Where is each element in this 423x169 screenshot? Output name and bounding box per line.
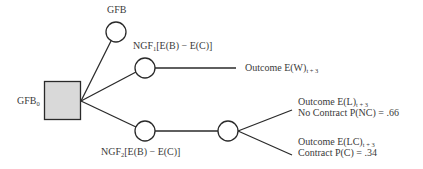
label-gfb-text: GFB: [107, 4, 126, 15]
label-root-text: GFB: [17, 95, 36, 106]
node-ngf2-circle: [135, 121, 155, 141]
label-outcome-lc-text: Outcome E(LC): [298, 136, 363, 147]
label-outcome-l: Outcome E(L)t + 3 No Contract P(NC) = .6…: [298, 96, 399, 118]
label-ngf1: NGF1[E(B) − E(C)]: [133, 40, 212, 51]
branch-no-contract: [238, 110, 292, 131]
branch-ngf2: [81, 101, 136, 127]
label-gfb: GFB: [107, 4, 126, 15]
decision-node-square: [45, 82, 81, 120]
label-ngf2: NGF2[E(B) − E(C)]: [101, 146, 180, 157]
label-root-sub: 0: [36, 100, 39, 107]
label-ngf1-suffix: [E(B) − E(C)]: [156, 40, 212, 51]
node-gfb-circle: [106, 22, 126, 42]
label-root: GFB0: [17, 95, 40, 106]
label-outcome-w: Outcome E(W)t + 3: [245, 62, 318, 73]
branch-contract: [238, 131, 292, 155]
label-outcome-w-text: Outcome E(W): [245, 62, 306, 73]
label-contract-prob: Contract P(C) = .34: [298, 147, 377, 158]
branch-gfb: [81, 41, 111, 101]
label-ngf1-prefix: NGF: [133, 40, 153, 51]
label-ngf2-prefix: NGF: [101, 146, 121, 157]
label-outcome-l-text: Outcome E(L): [298, 96, 356, 107]
chance-node-circle: [218, 121, 238, 141]
branch-ngf1: [81, 72, 136, 101]
node-ngf1-circle: [135, 58, 155, 78]
label-outcome-w-sub: t + 3: [306, 67, 318, 74]
label-ngf2-suffix: [E(B) − E(C)]: [124, 146, 180, 157]
label-no-contract-prob: No Contract P(NC) = .66: [298, 107, 399, 118]
label-outcome-lc: Outcome E(LC)t + 3 Contract P(C) = .34: [298, 136, 377, 158]
